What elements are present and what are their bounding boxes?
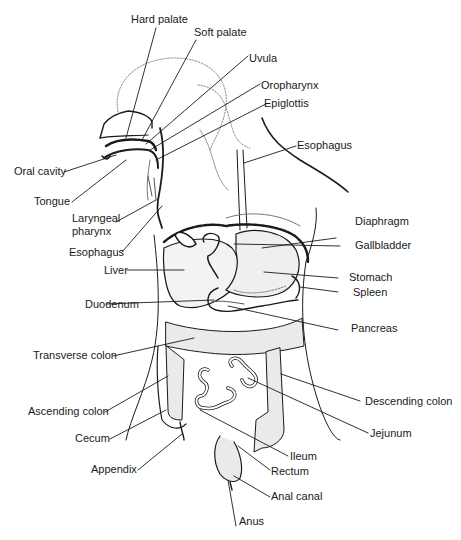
label-transverse-colon: Transverse colon: [33, 349, 117, 362]
label-oropharynx: Oropharynx: [261, 79, 318, 92]
jejunum-loops-inner: [230, 358, 256, 386]
label-diaphragm: Diaphragm: [355, 215, 409, 228]
label-liver: Liver: [104, 264, 128, 277]
label-anal-canal: Anal canal: [271, 490, 322, 503]
label-duodenum: Duodenum: [85, 298, 139, 311]
appendix: [180, 422, 184, 440]
esophagus-tube-left: [237, 150, 240, 230]
label-pancreas: Pancreas: [351, 322, 397, 335]
nasal-floor: [100, 135, 148, 138]
small-intestine-inner: [197, 369, 235, 408]
label-ascending-colon: Ascending colon: [28, 405, 109, 418]
label-descending-colon: Descending colon: [365, 395, 452, 408]
stomach: [226, 231, 299, 297]
label-tongue: Tongue: [34, 195, 70, 208]
label-epiglottis: Epiglottis: [264, 97, 309, 110]
descending-colon: [254, 348, 284, 452]
label-laryngeal: Laryngeal: [72, 212, 120, 225]
transverse-colon: [166, 318, 304, 355]
shoulder-curve: [262, 118, 348, 192]
label-stomach: Stomach: [349, 271, 392, 284]
label-anus: Anus: [239, 515, 264, 528]
label-cecum: Cecum: [75, 432, 110, 445]
torso-left: [126, 235, 158, 440]
pancreas: [212, 301, 244, 304]
hard-palate: [106, 140, 156, 150]
anal-canal: [230, 482, 232, 490]
label-hard-palate: Hard palate: [131, 13, 188, 26]
torso-right: [303, 262, 340, 440]
label-jejunum: Jejunum: [370, 427, 412, 440]
label-soft-palate: Soft palate: [194, 26, 247, 39]
label-gallbladder: Gallbladder: [355, 239, 411, 252]
face-outline: [100, 111, 152, 138]
ascending-colon: [166, 346, 184, 420]
larynx: [148, 176, 156, 200]
label-appendix: Appendix: [91, 463, 137, 476]
digestive-system-diagram: Hard palate Soft palate Uvula Oropharynx…: [0, 0, 461, 540]
label-oral-cavity: Oral cavity: [14, 165, 66, 178]
label-spleen: Spleen: [353, 286, 387, 299]
anatomy-drawing: [0, 0, 461, 540]
neck-outline: [200, 130, 228, 190]
label-esophagus-lower: Esophagus: [69, 246, 124, 259]
esophagus-tube-right: [243, 150, 247, 228]
tongue-shape: [104, 149, 158, 168]
liver: [164, 239, 240, 308]
label-uvula: Uvula: [249, 52, 277, 65]
rectum: [215, 436, 242, 481]
label-ileum: Ileum: [290, 450, 317, 463]
label-esophagus-upper: Esophagus: [297, 139, 352, 152]
label-pharynx: pharynx: [72, 225, 111, 238]
label-rectum: Rectum: [271, 465, 309, 478]
